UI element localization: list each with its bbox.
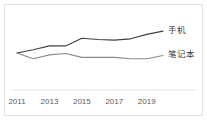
- x-tick-label-1: 2013: [36, 96, 62, 108]
- series-label-laptop: 笔记本: [168, 50, 195, 59]
- x-tick-label-0: 2011: [4, 96, 30, 108]
- x-tick-label-4: 2019: [134, 96, 160, 108]
- x-tick-label-2: 2015: [69, 96, 95, 108]
- chart-screenshot: 手机 笔记本 2011 2013 2015 2017 2019: [0, 0, 207, 129]
- series-line-phone: [17, 31, 163, 53]
- series-line-laptop: [17, 53, 163, 59]
- x-axis-tick-labels: 2011 2013 2015 2017 2019: [5, 96, 204, 112]
- chart-frame: 手机 笔记本 2011 2013 2015 2017 2019: [4, 4, 203, 116]
- x-tick-label-3: 2017: [101, 96, 127, 108]
- series-label-phone: 手机: [168, 26, 186, 35]
